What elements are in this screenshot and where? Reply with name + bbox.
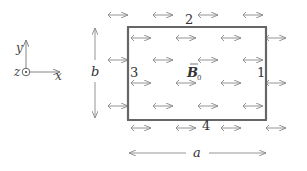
coordinate-axes: y x z (13, 40, 62, 83)
dimension-b-label: b (91, 64, 99, 79)
field-label: B 0 (186, 64, 201, 82)
side-label-4: 4 (202, 118, 210, 133)
side-label-1: 1 (257, 65, 265, 80)
side-label-3: 3 (130, 65, 138, 80)
dimension-a-label: a (193, 145, 201, 160)
dimension-b: b (91, 28, 99, 118)
dimension-a: a (129, 145, 266, 160)
z-axis-label: z (13, 65, 21, 79)
x-axis-label: x (55, 69, 62, 83)
field-subscript: 0 (197, 74, 201, 82)
z-axis-dot (25, 71, 27, 73)
side-label-2: 2 (185, 12, 193, 27)
loop-in-field-diagram: 1 2 3 4 B 0 y x z b a (0, 0, 307, 171)
y-axis-label: y (15, 41, 23, 55)
